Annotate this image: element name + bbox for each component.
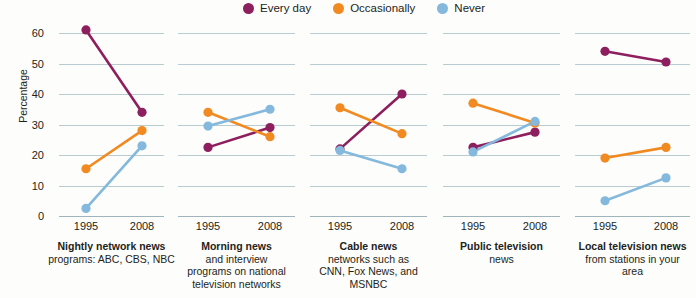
data-point-every-day xyxy=(397,89,406,98)
data-point-every-day xyxy=(81,25,90,34)
panel-series-layer xyxy=(178,0,295,220)
data-point-every-day xyxy=(661,57,670,66)
series-line-every-day xyxy=(473,132,535,147)
data-point-never xyxy=(468,147,477,156)
panel-caption-title: Local television news xyxy=(561,240,696,253)
data-point-occasionally xyxy=(397,129,406,138)
x-tick-label: 2008 xyxy=(654,220,678,232)
data-point-occasionally xyxy=(265,132,274,141)
y-tick-label: 0 xyxy=(14,210,44,222)
series-line-every-day xyxy=(208,128,270,148)
panel-caption-subtitle-line: television networks xyxy=(164,278,309,291)
panel-caption: Public televisionnews xyxy=(429,240,574,265)
panel-series-layer xyxy=(443,0,560,220)
y-tick-label: 10 xyxy=(14,180,44,192)
panel-caption-title: Morning news xyxy=(164,240,309,253)
panel-series-layer xyxy=(310,0,427,220)
panel-caption-subtitle-line: from stations in your xyxy=(561,253,696,266)
panel-caption: Local television newsfrom stations in yo… xyxy=(561,240,696,278)
panel-series-layer xyxy=(59,0,164,220)
series-line-occasionally xyxy=(86,131,142,169)
panel-caption-title: Cable news xyxy=(296,240,441,253)
data-point-occasionally xyxy=(137,126,146,135)
series-line-occasionally xyxy=(605,147,666,158)
chart-panel: 19952008Cable newsnetworks such asCNN, F… xyxy=(310,0,427,298)
data-point-never xyxy=(335,146,344,155)
series-line-never xyxy=(340,150,402,168)
data-point-occasionally xyxy=(335,103,344,112)
data-point-every-day xyxy=(203,143,212,152)
panel-caption: Morning newsand interviewprograms on nat… xyxy=(164,240,309,290)
data-point-every-day xyxy=(600,47,609,56)
panel-caption-title: Public television xyxy=(429,240,574,253)
series-line-every-day xyxy=(605,51,666,62)
panel-caption-subtitle-line: programs: ABC, CBS, NBC xyxy=(45,253,178,266)
data-point-never xyxy=(81,204,90,213)
y-tick-label: 30 xyxy=(14,119,44,131)
panel-caption-subtitle-line: programs on national xyxy=(164,265,309,278)
series-line-never xyxy=(473,121,535,152)
x-tick-label: 1995 xyxy=(593,220,617,232)
x-tick-label: 1995 xyxy=(196,220,220,232)
panel-caption-subtitle-line: CNN, Fox News, and xyxy=(296,265,441,278)
x-tick-label: 2008 xyxy=(130,220,154,232)
y-tick-label: 60 xyxy=(14,27,44,39)
series-line-occasionally xyxy=(340,108,402,134)
series-line-never xyxy=(86,146,142,209)
y-tick-label: 40 xyxy=(14,88,44,100)
data-point-never xyxy=(265,105,274,114)
y-tick-label: 20 xyxy=(14,149,44,161)
x-tick-label: 1995 xyxy=(74,220,98,232)
panel-caption: Cable newsnetworks such asCNN, Fox News,… xyxy=(296,240,441,290)
panel-series-layer xyxy=(575,0,690,220)
chart-panel: 19952008Public televisionnews xyxy=(443,0,560,298)
data-point-every-day xyxy=(265,123,274,132)
x-tick-label: 2008 xyxy=(523,220,547,232)
data-point-occasionally xyxy=(600,153,609,162)
series-line-occasionally xyxy=(473,103,535,123)
panel-caption: Nightly network newsprograms: ABC, CBS, … xyxy=(45,240,178,265)
data-point-occasionally xyxy=(661,143,670,152)
data-point-every-day xyxy=(530,128,539,137)
y-tick-label: 50 xyxy=(14,58,44,70)
x-tick-label: 2008 xyxy=(258,220,282,232)
panel-caption-title: Nightly network news xyxy=(45,240,178,253)
data-point-occasionally xyxy=(468,99,477,108)
data-point-never xyxy=(203,121,212,130)
data-point-occasionally xyxy=(81,164,90,173)
panel-caption-subtitle-line: MSNBC xyxy=(296,278,441,291)
x-tick-label: 2008 xyxy=(390,220,414,232)
panel-caption-subtitle-line: and interview xyxy=(164,253,309,266)
data-point-never xyxy=(600,196,609,205)
series-line-never xyxy=(605,178,666,201)
data-point-never xyxy=(397,164,406,173)
x-tick-label: 1995 xyxy=(461,220,485,232)
chart-panel: 19952008Nightly network newsprograms: AB… xyxy=(59,0,164,298)
panel-caption-subtitle-line: area xyxy=(561,265,696,278)
data-point-never xyxy=(661,173,670,182)
data-point-occasionally xyxy=(203,108,212,117)
panel-caption-subtitle-line: networks such as xyxy=(296,253,441,266)
chart-panel: 19952008Local television newsfrom statio… xyxy=(575,0,690,298)
data-point-never xyxy=(530,117,539,126)
series-line-every-day xyxy=(86,30,142,112)
data-point-every-day xyxy=(137,108,146,117)
chart-panel: 19952008Morning newsand interviewprogram… xyxy=(178,0,295,298)
data-point-never xyxy=(137,141,146,150)
x-tick-label: 1995 xyxy=(328,220,352,232)
panel-caption-subtitle-line: news xyxy=(429,253,574,266)
